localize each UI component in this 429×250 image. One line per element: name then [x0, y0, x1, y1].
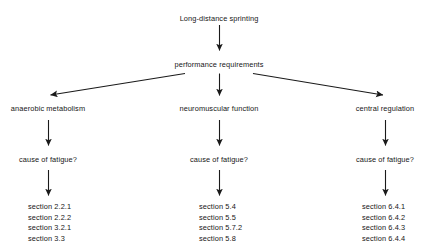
section-item: section 6.4.2 [362, 213, 405, 224]
node-question-central: cause of fatigue? [356, 155, 414, 164]
section-item: section 3.2.1 [28, 223, 71, 234]
node-anaerobic-metabolism: anaerobic metabolism [11, 104, 85, 113]
section-list-central: section 6.4.1 section 6.4.2 section 6.4.… [362, 202, 405, 245]
section-item: section 6.4.3 [362, 223, 405, 234]
node-question-neuromuscular: cause of fatigue? [190, 155, 248, 164]
section-item: section 5.8 [199, 234, 242, 245]
section-item: section 2.2.2 [28, 213, 71, 224]
section-list-neuromuscular: section 5.4 section 5.5 section 5.7.2 se… [199, 202, 242, 245]
node-root: Long-distance sprinting [180, 14, 259, 23]
section-item: section 2.2.1 [28, 202, 71, 213]
connector-requirements-to-central [253, 74, 383, 96]
connector-requirements-to-anaerobic [51, 74, 186, 96]
section-item: section 3.3 [28, 234, 71, 245]
section-item: section 6.4.4 [362, 234, 405, 245]
node-question-anaerobic: cause of fatigue? [19, 155, 77, 164]
node-performance-requirements: performance requirements [174, 60, 263, 69]
section-list-anaerobic: section 2.2.1 section 2.2.2 section 3.2.… [28, 202, 71, 245]
section-item: section 5.5 [199, 213, 242, 224]
section-item: section 5.4 [199, 202, 242, 213]
section-item: section 6.4.1 [362, 202, 405, 213]
flowchart-canvas: Long-distance sprinting performance requ… [0, 0, 429, 250]
section-item: section 5.7.2 [199, 223, 242, 234]
node-neuromuscular-function: neuromuscular function [179, 104, 258, 113]
node-central-regulation: central regulation [356, 104, 415, 113]
